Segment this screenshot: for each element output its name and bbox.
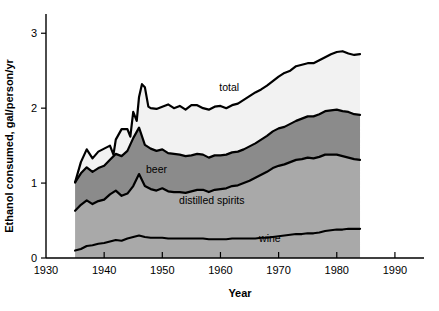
y-tick-label: 2 bbox=[31, 102, 37, 114]
x-tick-label: 1930 bbox=[34, 264, 58, 276]
y-tick-label: 3 bbox=[31, 27, 37, 39]
x-tick-label: 1950 bbox=[150, 264, 174, 276]
x-tick-label: 1980 bbox=[325, 264, 349, 276]
x-tick-label: 1970 bbox=[266, 264, 290, 276]
series-label-beer: beer bbox=[146, 163, 168, 175]
chart-container: 0123 1930194019501960197019801990 totalb… bbox=[0, 0, 439, 311]
x-tick-label: 1960 bbox=[208, 264, 232, 276]
x-tick-label: 1990 bbox=[383, 264, 407, 276]
series-label-distilled-spirits: distilled spirits bbox=[179, 194, 244, 206]
y-tick-label: 0 bbox=[31, 252, 37, 264]
series-label-total: total bbox=[219, 81, 239, 93]
x-axis-title: Year bbox=[228, 287, 252, 299]
y-axis-ticks: 0123 bbox=[31, 27, 46, 264]
y-axis-title: Ethanol consumed, gal/person/yr bbox=[3, 58, 15, 232]
x-tick-label: 1940 bbox=[92, 264, 116, 276]
y-tick-label: 1 bbox=[31, 177, 37, 189]
ethanol-consumption-stacked-area-chart: 0123 1930194019501960197019801990 totalb… bbox=[0, 0, 439, 311]
series-label-wine: wine bbox=[258, 232, 281, 244]
